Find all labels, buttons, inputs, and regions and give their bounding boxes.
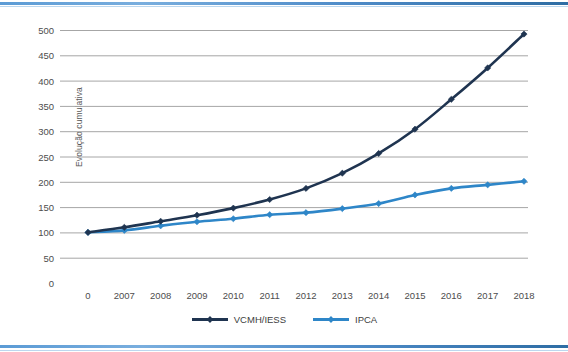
data-point-marker — [412, 192, 418, 198]
y-axis-tick-label: 300 — [38, 126, 54, 137]
series-line — [88, 34, 524, 232]
x-axis-tick-label: 2012 — [295, 290, 316, 301]
data-point-marker — [230, 205, 236, 211]
legend-label: IPCA — [355, 314, 377, 325]
bottom-divider-rule — [0, 345, 568, 348]
data-point-marker — [448, 185, 454, 191]
data-point-marker — [230, 216, 236, 222]
series-vcmh-iess — [85, 31, 527, 236]
x-axis-tick-label: 2007 — [114, 290, 135, 301]
data-point-marker — [339, 206, 345, 212]
x-axis-tick-label: 2009 — [186, 290, 207, 301]
y-axis-tick-label: 500 — [38, 25, 54, 36]
legend-label: VCMH/IESS — [234, 314, 286, 325]
gridlines — [60, 31, 528, 284]
legend-marker-icon — [191, 314, 229, 325]
x-axis-tick-label: 0 — [85, 290, 90, 301]
x-axis-tick-label: 2010 — [223, 290, 244, 301]
x-axis-tick-label: 2016 — [441, 290, 462, 301]
data-point-marker — [194, 219, 200, 225]
data-point-marker — [267, 196, 273, 202]
legend-entry[interactable]: VCMH/IESS — [191, 314, 286, 325]
chart-legend: VCMH/IESSIPCA — [0, 314, 568, 325]
data-point-marker — [303, 210, 309, 216]
y-axis-tick-label: 100 — [38, 227, 54, 238]
plot-area: Evolução cumulativa 05010015020025030035… — [60, 30, 532, 283]
y-axis-tick-label: 150 — [38, 202, 54, 213]
bottom-divider-rule-secondary — [0, 350, 568, 351]
data-point-marker — [158, 218, 164, 224]
x-axis-tick-label: 2014 — [368, 290, 389, 301]
x-axis-tick-label: 2008 — [150, 290, 171, 301]
top-divider-rule — [0, 2, 568, 5]
y-axis-tick-label: 200 — [38, 176, 54, 187]
y-axis-tick-label: 450 — [38, 50, 54, 61]
data-point-marker — [85, 229, 91, 235]
legend-entry[interactable]: IPCA — [312, 314, 377, 325]
y-axis-tick-label: 250 — [38, 151, 54, 162]
legend-marker-icon — [312, 314, 350, 325]
data-point-marker — [194, 212, 200, 218]
x-axis-tick-label: 2011 — [259, 290, 279, 301]
chart-figure: Evolução cumulativa 05010015020025030035… — [0, 0, 568, 352]
x-axis-tick-label: 2013 — [332, 290, 353, 301]
x-axis-tick-label: 2017 — [477, 290, 498, 301]
x-axis-tick-label: 2018 — [513, 290, 534, 301]
series-layer — [85, 31, 527, 236]
data-point-marker — [267, 212, 273, 218]
y-axis-tick-label: 350 — [38, 100, 54, 111]
x-axis-tick-label: 2015 — [404, 290, 425, 301]
y-axis-tick-label: 50 — [43, 252, 54, 263]
plot-canvas — [60, 30, 532, 283]
data-point-marker — [521, 178, 527, 184]
y-axis-tick-label: 400 — [38, 75, 54, 86]
top-divider-rule-secondary — [0, 6, 568, 7]
y-axis-tick-label: 0 — [49, 278, 54, 289]
data-point-marker — [376, 200, 382, 206]
